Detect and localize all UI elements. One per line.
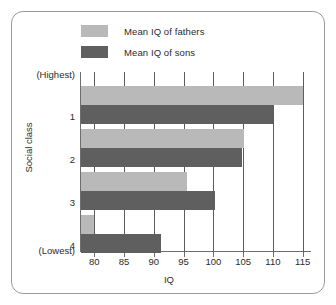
y-axis-tick-label: (Lowest)	[39, 245, 75, 256]
legend-swatch-fathers	[81, 25, 108, 37]
bar-fathers-class-2	[81, 129, 244, 148]
x-axis-tick-label: 80	[89, 256, 100, 267]
plot-area: 80859095100105110115	[80, 72, 311, 252]
chart-legend: Mean IQ of fathers Mean IQ of sons	[81, 22, 204, 64]
x-axis-tick-label: 85	[119, 256, 130, 267]
x-axis-tick-label: 90	[149, 256, 160, 267]
x-axis-tick-label: 95	[178, 256, 189, 267]
bar-fathers-class-1	[81, 86, 303, 105]
legend-item-fathers: Mean IQ of fathers	[81, 22, 204, 40]
plot-inner: 80859095100105110115	[80, 72, 311, 252]
x-axis-tick-label: 105	[235, 256, 251, 267]
y-axis-tick-labels: (Highest)1234(Lowest)	[12, 72, 80, 252]
bar-sons-class-1	[81, 105, 273, 124]
x-axis-tick-label: 115	[295, 256, 310, 267]
x-axis-tick-label: 100	[205, 256, 221, 267]
y-axis-tick-label: 2	[70, 153, 75, 164]
bar-sons-class-2	[81, 148, 242, 167]
bar-fathers-class-4	[81, 215, 94, 234]
x-axis-tick-label: 110	[265, 256, 280, 267]
legend-label-fathers: Mean IQ of fathers	[124, 26, 204, 37]
bar-fathers-class-3	[81, 172, 187, 191]
legend-swatch-sons	[81, 46, 108, 58]
chart-figure: Mean IQ of fathers Mean IQ of sons Socia…	[11, 11, 325, 294]
x-axis-title: IQ	[12, 274, 326, 285]
y-axis-tick-label: 3	[70, 196, 75, 207]
bar-sons-class-3	[81, 191, 215, 210]
legend-item-sons: Mean IQ of sons	[81, 43, 204, 61]
legend-label-sons: Mean IQ of sons	[124, 47, 195, 58]
y-axis-tick-label: (Highest)	[36, 69, 75, 80]
x-gridline	[303, 72, 304, 252]
bar-sons-class-4	[81, 234, 161, 253]
y-axis-tick-label: 1	[70, 110, 75, 121]
